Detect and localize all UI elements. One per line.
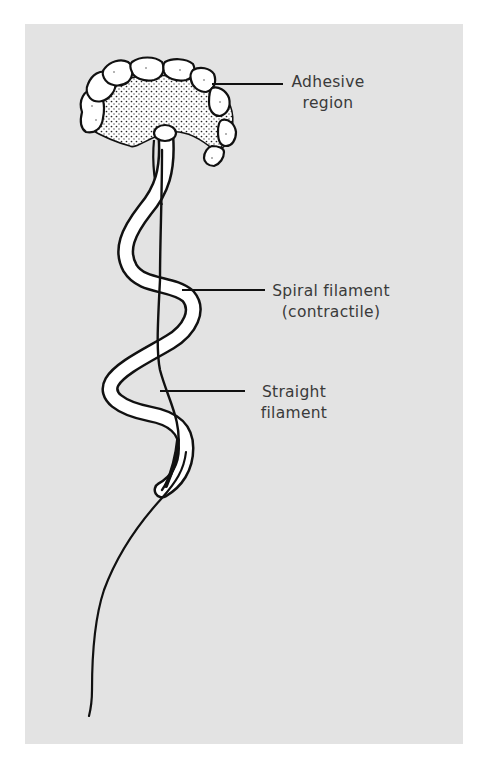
spiral-filament <box>110 125 193 490</box>
label-adhesive-line2: region <box>290 93 366 114</box>
label-straight-line1: Straight <box>250 382 338 403</box>
label-spiral-line1: Spiral filament <box>270 281 392 302</box>
label-straight-filament: Straight filament <box>250 382 338 424</box>
label-adhesive-region: Adhesive region <box>290 72 366 114</box>
label-spiral-line2: (contractile) <box>270 302 392 323</box>
label-spiral-filament: Spiral filament (contractile) <box>270 281 392 323</box>
straight-filament <box>158 150 179 490</box>
label-straight-line2: filament <box>250 403 338 424</box>
label-adhesive-line1: Adhesive <box>290 72 366 93</box>
filament-illustration <box>0 0 482 767</box>
